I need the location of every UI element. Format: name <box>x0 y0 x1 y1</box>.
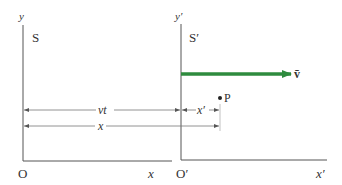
velocity-label: v̄ <box>294 67 300 81</box>
s-prime-origin-label: O′ <box>176 166 188 181</box>
s-prime-x-axis-label: x′ <box>315 166 325 181</box>
point-p-label: P <box>224 91 231 105</box>
x-prime-label: x′ <box>196 103 205 117</box>
s-x-axis-label: x <box>147 166 154 181</box>
s-y-axis-label: y <box>18 10 24 22</box>
point-p: P <box>218 91 231 105</box>
frame-s-prime: y′ S′ O′ x′ <box>174 10 327 181</box>
frame-s: y S O x <box>18 10 172 181</box>
s-origin-label: O <box>18 166 27 181</box>
vt-label: vt <box>98 103 107 117</box>
velocity-vector: v̄ <box>181 67 300 81</box>
s-frame-label: S <box>32 30 39 45</box>
dimension-lines: vt x′ x <box>24 103 220 133</box>
s-prime-frame-label: S′ <box>189 30 199 45</box>
reference-frames-diagram: y S O x y′ S′ O′ x′ v̄ P vt x′ x <box>0 0 342 185</box>
point-p-dot <box>218 96 222 100</box>
x-label: x <box>97 119 104 133</box>
s-prime-y-axis-label: y′ <box>174 10 183 22</box>
